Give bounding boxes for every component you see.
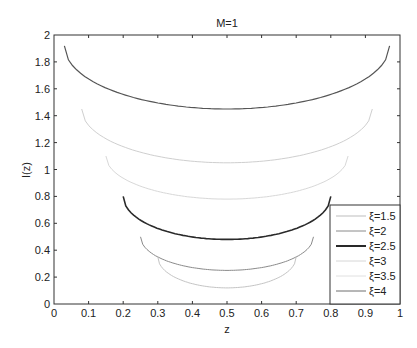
x-tick-label: 0.8 bbox=[323, 307, 338, 319]
x-tick-label: 0.4 bbox=[185, 307, 200, 319]
y-tick-label: 1.4 bbox=[35, 110, 50, 122]
y-tick-label: 0.8 bbox=[35, 190, 50, 202]
x-tick-label: 0.3 bbox=[150, 307, 165, 319]
legend-label: ξ=4 bbox=[369, 285, 386, 297]
y-tick-label: 1.2 bbox=[35, 137, 50, 149]
x-tick-label: 0.9 bbox=[358, 307, 373, 319]
series-line bbox=[141, 237, 314, 271]
series-line bbox=[64, 46, 389, 109]
legend: ξ=1.5ξ=2ξ=2.5ξ=3ξ=3.5ξ=4 bbox=[330, 205, 400, 304]
y-tick-label: 1.6 bbox=[35, 83, 50, 95]
legend-label: ξ=1.5 bbox=[369, 210, 396, 222]
x-tick-label: 1 bbox=[397, 307, 403, 319]
x-tick-label: 0.6 bbox=[254, 307, 269, 319]
line-chart: M=1 00.10.20.30.40.50.60.70.80.91 00.20.… bbox=[0, 0, 417, 348]
y-axis-label: I(z) bbox=[20, 162, 32, 178]
y-tick-label: 2 bbox=[44, 29, 50, 41]
legend-label: ξ=2 bbox=[369, 225, 386, 237]
x-tick-label: 0.7 bbox=[289, 307, 304, 319]
x-tick-label: 0.1 bbox=[81, 307, 96, 319]
x-tick-label: 0 bbox=[51, 307, 57, 319]
y-tick-label: 1 bbox=[44, 164, 50, 176]
series-line bbox=[158, 257, 296, 288]
legend-label: ξ=3 bbox=[369, 255, 386, 267]
legend-label: ξ=3.5 bbox=[369, 270, 396, 282]
y-tick-label: 0 bbox=[44, 298, 50, 310]
legend-label: ξ=2.5 bbox=[369, 240, 396, 252]
y-tick-label: 1.8 bbox=[35, 56, 50, 68]
y-tick-label: 0.2 bbox=[35, 271, 50, 283]
x-tick-label: 0.2 bbox=[116, 307, 131, 319]
y-tick-label: 0.6 bbox=[35, 217, 50, 229]
chart-title: M=1 bbox=[216, 17, 238, 29]
y-tick-label: 0.4 bbox=[35, 244, 50, 256]
series-line bbox=[82, 109, 373, 163]
x-axis-label: z bbox=[224, 323, 230, 335]
x-tick-label: 0.5 bbox=[219, 307, 234, 319]
series-line bbox=[123, 196, 331, 239]
